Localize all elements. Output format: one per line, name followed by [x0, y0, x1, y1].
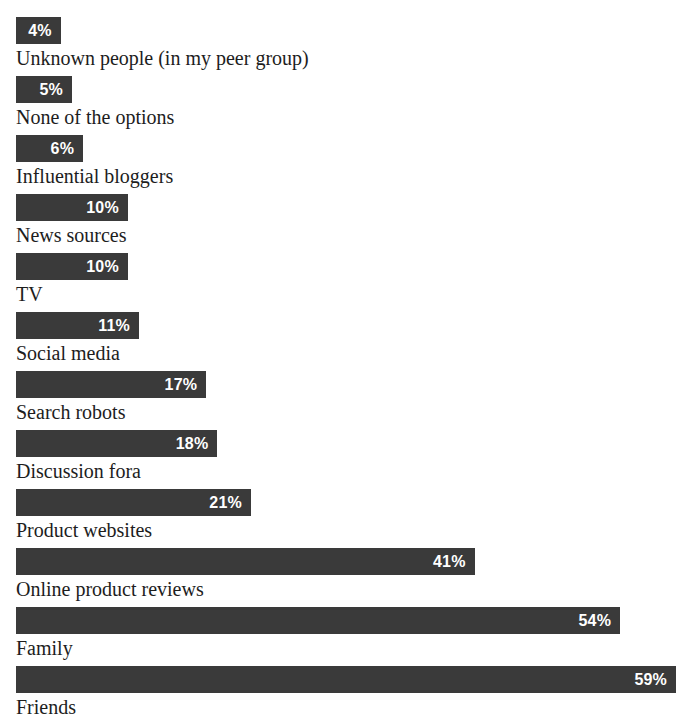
- bar-chart-row: 10%News sources: [16, 194, 676, 253]
- bar-chart-plot-area: 4%Unknown people (in my peer group)5%Non…: [16, 17, 676, 718]
- bar-value-label: 41%: [433, 554, 466, 570]
- bar: 4%: [16, 17, 61, 44]
- bar-value-label: 5%: [39, 82, 63, 98]
- bar: 18%: [16, 430, 217, 457]
- bar-chart-row: 21%Product websites: [16, 489, 676, 548]
- bar-chart-row: 54%Family: [16, 607, 676, 666]
- bar-category-label: Social media: [16, 340, 120, 366]
- bar-category-label: Family: [16, 635, 73, 661]
- bar-value-label: 17%: [165, 377, 198, 393]
- bar-value-label: 4%: [28, 23, 52, 39]
- bar-category-label: None of the options: [16, 104, 174, 130]
- bar-value-label: 54%: [578, 613, 611, 629]
- bar-chart-row: 17%Search robots: [16, 371, 676, 430]
- bar-category-label: TV: [16, 281, 43, 307]
- bar-value-label: 59%: [634, 672, 667, 688]
- bar-value-label: 21%: [209, 495, 242, 511]
- bar: 6%: [16, 135, 83, 162]
- bar: 11%: [16, 312, 139, 339]
- bar-chart-row: 6%Influential bloggers: [16, 135, 676, 194]
- bar-category-label: Product websites: [16, 517, 152, 543]
- bar: 21%: [16, 489, 251, 516]
- bar-value-label: 10%: [86, 200, 119, 216]
- bar: 41%: [16, 548, 475, 575]
- bar-chart-row: 41%Online product reviews: [16, 548, 676, 607]
- bar-chart-row: 10%TV: [16, 253, 676, 312]
- bar: 54%: [16, 607, 620, 634]
- bar-value-label: 11%: [98, 318, 130, 334]
- bar: 5%: [16, 76, 72, 103]
- bar-chart-row: 11%Social media: [16, 312, 676, 371]
- bar-chart-row: 4%Unknown people (in my peer group): [16, 17, 676, 76]
- bar-value-label: 18%: [176, 436, 209, 452]
- bar-chart-row: 5%None of the options: [16, 76, 676, 135]
- bar: 10%: [16, 194, 128, 221]
- bar-chart-row: 59%Friends: [16, 666, 676, 718]
- bar-category-label: Search robots: [16, 399, 125, 425]
- bar: 17%: [16, 371, 206, 398]
- bar-value-label: 6%: [51, 141, 75, 157]
- bar-category-label: Influential bloggers: [16, 163, 173, 189]
- bar-category-label: News sources: [16, 222, 127, 248]
- bar: 10%: [16, 253, 128, 280]
- bar-category-label: Online product reviews: [16, 576, 204, 602]
- bar-category-label: Unknown people (in my peer group): [16, 45, 309, 71]
- bar-category-label: Discussion fora: [16, 458, 141, 484]
- bar-category-label: Friends: [16, 694, 76, 718]
- bar-value-label: 10%: [86, 259, 119, 275]
- bar: 59%: [16, 666, 676, 693]
- bar-chart-row: 18%Discussion fora: [16, 430, 676, 489]
